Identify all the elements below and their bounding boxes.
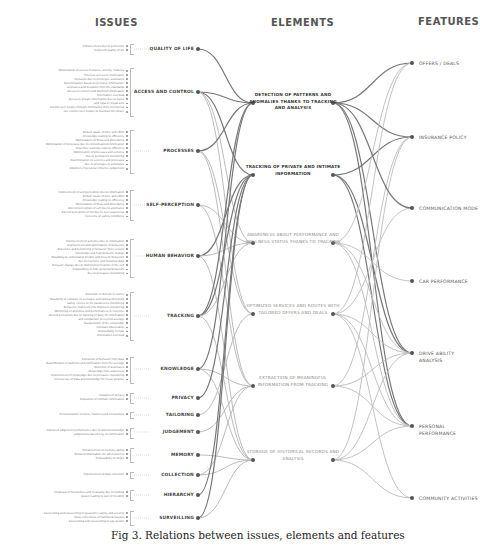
bullet-marker-icon: [126, 327, 128, 329]
issue-item-text: Improved quality of life: [94, 49, 124, 52]
issue-item-text: Quantification of patterns and informati…: [46, 362, 124, 365]
bullet-marker-icon: [126, 366, 128, 368]
issue-item-text: Personalization of tours, features and i…: [59, 413, 124, 416]
element-label: OPTIMIZED SERVICES AND ROUTES WITH TAILO…: [245, 303, 341, 316]
group-bracket: [130, 239, 134, 279]
issue-item: Information overload: [49, 334, 128, 338]
bullet-marker-icon: [126, 78, 128, 80]
bullet-marker-icon: [126, 379, 128, 381]
issue-item: Exposition of intimate information: [80, 398, 128, 402]
bullet-marker-icon: [126, 449, 128, 451]
issue-group-human-behavior: Improvement of activities due to informa…: [51, 240, 128, 277]
element-feature-link: [333, 460, 412, 498]
issue-item-text: Exclusion due to privileges, anomalies: [74, 78, 124, 81]
bullet-marker-icon: [126, 331, 128, 333]
issue-item-text: due to pervasive monitoring: [87, 272, 124, 275]
issue-group-surveilling: Sourveilling and sousveilling to guarant…: [44, 512, 128, 524]
issue-group-processes: Reduct waste of time and effortKnowledge…: [46, 131, 128, 172]
figure-caption: Fig 3. Relations between issues, element…: [111, 529, 405, 541]
issue-item-text: knowledge and help behavior change: [75, 252, 124, 255]
feature-label: COMMUNITY ACTIVITIES: [419, 495, 479, 502]
issue-item-text: Reduct waste of time and effort: [83, 195, 124, 198]
element-label: DETECTION OF PATTERNS AND ANOMALIES THAN…: [245, 92, 341, 112]
issue-item-text: Improvement of self-perception due to in…: [58, 191, 124, 194]
bullet-marker-icon: [126, 429, 128, 431]
issue-item-text: Detection and monitoring of behavior fro…: [58, 248, 124, 251]
bullet-marker-icon: [126, 103, 128, 105]
issue-category-label: TRACKING: [167, 313, 194, 318]
feature-node: [410, 351, 414, 355]
bullet-marker-icon: [126, 139, 128, 141]
issue-item-text: Knowledge from awareness: [88, 370, 124, 373]
issue-item-text: Improvement of knowledge due to pervasiv…: [51, 374, 124, 377]
issue-item-text: Safety checks to life parameters monitor…: [67, 302, 124, 305]
bullet-marker-icon: [126, 143, 128, 145]
issue-item-text: Timeless access to information: [84, 74, 124, 77]
group-bracket: [130, 130, 134, 174]
bullet-marker-icon: [126, 49, 128, 51]
issue-item: Impossibility to forget: [75, 457, 128, 461]
bullet-marker-icon: [126, 256, 128, 258]
issue-item-text: Extraction of behavior from data: [82, 358, 124, 361]
issue-item-text: Sourveilling and sousveilling to spy peo…: [69, 520, 124, 523]
issue-item-text: due to real time and historical data: [78, 260, 124, 263]
issue-item-text: anomalies and deviation from the standar…: [67, 86, 125, 89]
issue-item-text: Optimization of processes due to context…: [46, 143, 124, 146]
bullet-marker-icon: [126, 90, 128, 92]
group-bracket: [130, 357, 134, 385]
issue-node: [196, 47, 200, 51]
issue-category-label: SURVEILLING: [159, 515, 194, 520]
bullet-marker-icon: [126, 207, 128, 209]
group-bracket: [130, 511, 134, 526]
issue-item: Use control over people to maintain the …: [50, 110, 128, 114]
issue-group-memory: Enhancement of memory abilityDetailed in…: [75, 449, 128, 461]
issue-item-text: Use control over people to maintain the …: [64, 110, 125, 113]
issue-node: [196, 516, 200, 520]
issue-item-text: Impossibility to hide personal behaviors: [72, 268, 124, 271]
element-label: STORAGE OF HISTORICAL RECORDS AND ANALYS…: [245, 449, 341, 462]
issue-node: [196, 203, 200, 207]
group-bracket: [130, 412, 134, 419]
issue-item-text: Optimization of processes and services: [73, 151, 124, 154]
issue-item-text: Ideas corrections of harmful behaviors: [74, 516, 124, 519]
bullet-marker-icon: [126, 453, 128, 455]
issue-category-label: PRIVACY: [171, 395, 194, 400]
issue-item-text: Impossibility to forget: [96, 457, 124, 460]
element-feature-link: [333, 137, 412, 460]
issue-category-label: HUMAN BEHAVIOR: [146, 253, 194, 258]
issue-item-text: Discrimination based on personal informa…: [64, 82, 124, 85]
issue-item-text: Altered perception due to tracking of da…: [49, 314, 125, 317]
issue-item-text: Monitoring of activities and performance…: [54, 310, 124, 313]
issue-item: Judgements based only on information: [47, 433, 128, 437]
issue-item: Concerns on safety conditions: [58, 215, 128, 219]
issue-group-hierarchy: Emphasis of hierarchies and inequality d…: [54, 491, 128, 499]
bullet-marker-icon: [126, 155, 128, 157]
bullet-marker-icon: [126, 70, 128, 72]
feature-label: DRIVE ABILITY ANALYSIS: [419, 350, 479, 364]
issue-category-label: MEMORY: [171, 452, 194, 457]
issue-item-text: due to privileges or anomalies: [85, 163, 124, 166]
issue-group-access-and-control: Optimization of access to places, activi…: [50, 69, 128, 114]
bullet-marker-icon: [126, 203, 128, 205]
bullet-marker-icon: [126, 358, 128, 360]
issue-category-label: SELF-PERCEPTION: [146, 202, 194, 207]
issue-item-text: Improvement of activities due to informa…: [66, 240, 124, 243]
bullet-marker-icon: [126, 260, 128, 262]
bullet-marker-icon: [126, 512, 128, 514]
issue-item: Improved quality of life: [83, 49, 128, 53]
issue-item-text: Altered perception of life due to over a…: [62, 211, 125, 214]
element-feature-link: [333, 353, 412, 386]
group-bracket: [130, 448, 134, 463]
issue-item: Improvement of data collection: [83, 473, 128, 477]
bullet-marker-icon: [126, 310, 128, 312]
bullet-marker-icon: [126, 94, 128, 96]
issue-item-text: Information overload: [97, 94, 124, 97]
issue-node: [196, 493, 200, 497]
issue-item-text: Detailed information for old memories: [75, 453, 125, 456]
issue-item-text: Sourveilling and sousveilling to guarant…: [44, 512, 124, 515]
issue-category-label: KNOWLEDGE: [161, 366, 195, 371]
bullet-marker-icon: [126, 457, 128, 459]
issue-category-label: ACCESS AND CONTROL: [134, 89, 194, 94]
bullet-marker-icon: [126, 211, 128, 213]
issue-category-label: PROCESSES: [163, 148, 194, 153]
